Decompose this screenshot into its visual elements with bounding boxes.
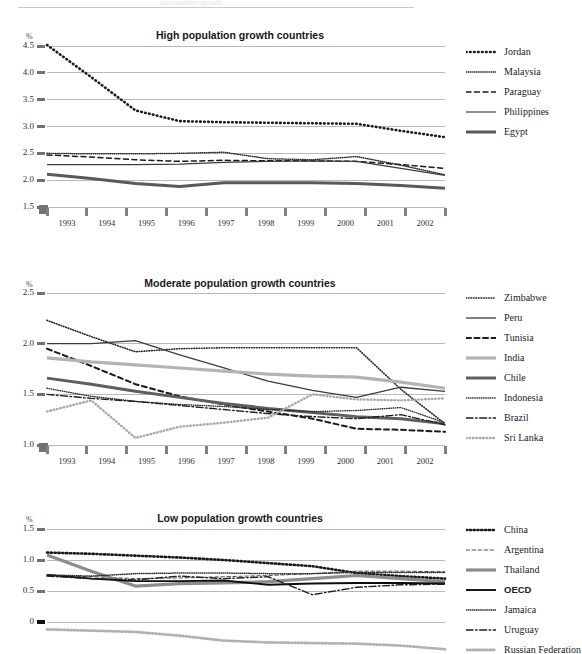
y-tick-mark bbox=[37, 152, 45, 155]
series-line bbox=[47, 174, 445, 188]
x-tick-label: 2002 bbox=[405, 456, 445, 466]
x-tick-mark bbox=[46, 208, 49, 216]
x-tick-mark bbox=[245, 446, 248, 454]
legend-item[interactable]: Brazil bbox=[466, 408, 547, 428]
legend-label: Malaysia bbox=[504, 66, 541, 78]
legend-item[interactable]: Jordan bbox=[466, 42, 549, 62]
y-tick-label: 1.5 bbox=[8, 388, 34, 398]
x-tick-label: 1994 bbox=[87, 218, 127, 228]
x-tick-label: 2000 bbox=[326, 456, 366, 466]
series-line bbox=[47, 629, 445, 649]
legend-line-icon bbox=[466, 46, 496, 58]
x-tick-mark bbox=[404, 208, 407, 216]
legend-item[interactable]: Tunisia bbox=[466, 328, 547, 348]
plot-area-low bbox=[47, 529, 445, 653]
legend-line-icon bbox=[466, 624, 496, 636]
legend-item[interactable]: OECD bbox=[466, 580, 581, 600]
y-tick-mark bbox=[37, 393, 45, 396]
y-tick-mark bbox=[37, 292, 45, 295]
y-tick-label: 3.0 bbox=[8, 121, 34, 131]
y-tick-label: 4.0 bbox=[8, 67, 34, 77]
x-tick-mark bbox=[364, 208, 367, 216]
y-tick-mark bbox=[37, 45, 45, 48]
legend-item[interactable]: China bbox=[466, 520, 581, 540]
legend-label: China bbox=[504, 524, 528, 536]
legend-line-icon bbox=[466, 564, 496, 576]
y-tick-mark bbox=[37, 528, 45, 531]
legend-item[interactable]: Uruguay bbox=[466, 620, 581, 640]
legend-line-icon bbox=[466, 584, 496, 596]
x-tick-mark bbox=[205, 208, 208, 216]
x-tick-mark bbox=[125, 208, 128, 216]
legend-line-icon bbox=[466, 432, 496, 444]
x-tick-mark bbox=[125, 446, 128, 454]
x-tick-label: 1995 bbox=[127, 456, 167, 466]
legend-item[interactable]: Chile bbox=[466, 368, 547, 388]
x-tick-label: 1998 bbox=[246, 456, 286, 466]
y-tick-label: 0.5 bbox=[8, 585, 34, 595]
y-tick-label: 2.5 bbox=[8, 147, 34, 157]
legend-label: Indonesia bbox=[504, 392, 543, 404]
x-tick-label: 1993 bbox=[47, 218, 87, 228]
y-tick-label: 2.5 bbox=[8, 287, 34, 297]
legend-item[interactable]: Zimbabwe bbox=[466, 288, 547, 308]
x-tick-mark bbox=[85, 446, 88, 454]
y-tick-mark bbox=[37, 179, 45, 182]
legend-item[interactable]: Sri Lanka bbox=[466, 428, 547, 448]
legend-item[interactable]: Jamaica bbox=[466, 600, 581, 620]
x-tick-mark bbox=[46, 446, 49, 454]
legend-label: Tunisia bbox=[504, 332, 534, 344]
legend-line-icon bbox=[466, 524, 496, 536]
y-tick-mark bbox=[37, 620, 45, 624]
legend-moderate: ZimbabwePeruTunisiaIndiaChileIndonesiaBr… bbox=[466, 288, 547, 448]
legend-line-icon bbox=[466, 126, 496, 138]
series-line bbox=[47, 161, 445, 175]
x-tick-mark bbox=[165, 208, 168, 216]
legend-item[interactable]: Philippines bbox=[466, 102, 549, 122]
legend-label: Argentina bbox=[504, 544, 544, 556]
legend-low: ChinaArgentinaThailandOECDJamaicaUruguay… bbox=[466, 520, 581, 654]
y-tick-label: 3.5 bbox=[8, 94, 34, 104]
chart-panel-moderate: Moderate population growth countries % 1… bbox=[0, 260, 582, 480]
x-tick-mark bbox=[444, 446, 447, 454]
legend-line-icon bbox=[466, 332, 496, 344]
legend-item[interactable]: Indonesia bbox=[466, 388, 547, 408]
legend-label: Jordan bbox=[504, 46, 531, 58]
chart-title-moderate: Moderate population growth countries bbox=[100, 277, 380, 289]
legend-label: Brazil bbox=[504, 412, 528, 424]
legend-item[interactable]: Peru bbox=[466, 308, 547, 328]
chart-panel-high: High population growth countries % 1.52.… bbox=[0, 0, 582, 240]
legend-line-icon bbox=[466, 544, 496, 556]
legend-item[interactable]: Argentina bbox=[466, 540, 581, 560]
x-tick-label: 1994 bbox=[87, 456, 127, 466]
x-tick-mark bbox=[284, 446, 287, 454]
legend-item[interactable]: Thailand bbox=[466, 560, 581, 580]
legend-label: Thailand bbox=[504, 564, 540, 576]
y-tick-mark bbox=[37, 98, 45, 101]
y-tick-mark bbox=[37, 559, 45, 562]
plot-area-moderate bbox=[47, 293, 445, 445]
x-tick-label: 1999 bbox=[286, 456, 326, 466]
x-tick-label: 1997 bbox=[206, 456, 246, 466]
legend-item[interactable]: Egypt bbox=[466, 122, 549, 142]
legend-line-icon bbox=[466, 292, 496, 304]
legend-label: Egypt bbox=[504, 126, 528, 138]
x-tick-label: 1999 bbox=[286, 218, 326, 228]
legend-item[interactable]: Paraguay bbox=[466, 82, 549, 102]
x-tick-label: 1995 bbox=[127, 218, 167, 228]
legend-item[interactable]: Malaysia bbox=[466, 62, 549, 82]
chart-svg bbox=[47, 46, 445, 207]
legend-line-icon bbox=[466, 312, 496, 324]
y-tick-label: 1.5 bbox=[8, 523, 34, 533]
series-line bbox=[47, 341, 445, 398]
legend-line-icon bbox=[466, 106, 496, 118]
x-tick-mark bbox=[444, 208, 447, 216]
chart-title-high: High population growth countries bbox=[110, 29, 370, 41]
legend-item[interactable]: Russian Federation bbox=[466, 640, 581, 654]
series-line bbox=[47, 152, 445, 175]
legend-item[interactable]: India bbox=[466, 348, 547, 368]
chart-svg bbox=[47, 293, 445, 445]
x-tick-label: 2002 bbox=[405, 218, 445, 228]
x-tick-label: 1993 bbox=[47, 456, 87, 466]
legend-line-icon bbox=[466, 644, 496, 654]
